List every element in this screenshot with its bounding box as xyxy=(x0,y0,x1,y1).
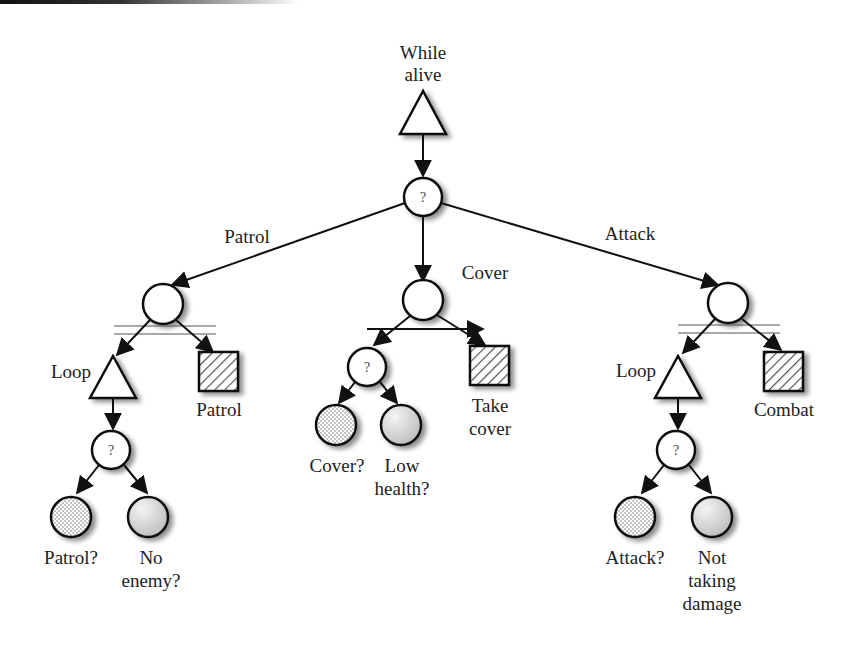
cover-action-label-line2: cover xyxy=(469,418,512,439)
attack-condition-2-label-line3: damage xyxy=(682,593,741,614)
behavior-tree-diagram: While alive ? Patrol Cover Attack Loop P… xyxy=(0,0,862,650)
attack-action-label: Combat xyxy=(754,399,815,420)
attack-condition-2-label-line1: Not xyxy=(698,547,727,568)
attack-action-node xyxy=(764,352,803,391)
patrol-loop-triangle-icon xyxy=(90,356,136,398)
root-label-line2: alive xyxy=(405,64,442,85)
cover-sequence-node xyxy=(403,280,443,320)
patrol-condition-no-enemy-node xyxy=(128,497,168,537)
patrol-condition-1-label: Patrol? xyxy=(44,547,98,568)
root-selector-symbol: ? xyxy=(420,190,426,205)
patrol-parallel-node xyxy=(143,284,183,324)
patrol-loop-label: Loop xyxy=(51,361,91,382)
attack-parallel-node xyxy=(708,283,748,323)
cover-condition-1-label: Cover? xyxy=(310,455,365,476)
attack-condition-1-label: Attack? xyxy=(605,547,664,568)
attack-loop-triangle-icon xyxy=(655,356,701,398)
cover-selector-symbol: ? xyxy=(364,360,370,375)
edge-patrol-to-action xyxy=(176,320,213,352)
cover-condition-2-label-line2: health? xyxy=(375,478,430,499)
while-alive-loop-triangle-icon xyxy=(400,91,446,134)
edge-to-patrol xyxy=(172,203,405,285)
edge-attack-sel-to-cond1 xyxy=(642,465,664,493)
patrol-condition-patrol-node xyxy=(51,497,91,537)
attack-condition-2-label-line2: taking xyxy=(688,570,736,591)
edge-patrol-sel-to-cond1 xyxy=(77,465,99,493)
edge-cover-sel-to-cond1 xyxy=(339,382,355,403)
patrol-selector-symbol: ? xyxy=(108,443,114,458)
attack-condition-not-taking-damage-node xyxy=(692,497,732,537)
patrol-condition-2-label-line2: enemy? xyxy=(121,570,180,591)
cover-condition-cover-node xyxy=(316,405,356,445)
cover-action-label-line1: Take xyxy=(472,395,509,416)
attack-condition-attack-node xyxy=(615,497,655,537)
edge-cover-sel-to-cond2 xyxy=(380,382,397,403)
patrol-action-label: Patrol xyxy=(196,399,241,420)
branch-label-patrol: Patrol xyxy=(224,226,269,247)
cover-condition-low-health-node xyxy=(381,405,421,445)
edge-cover-to-selector xyxy=(374,316,410,345)
edge-attack-to-loop xyxy=(683,319,715,353)
root-label-line1: While xyxy=(400,42,446,63)
patrol-condition-2-label-line1: No xyxy=(139,547,162,568)
edge-patrol-to-loop xyxy=(117,320,150,355)
branch-label-cover: Cover xyxy=(462,262,509,283)
edge-attack-to-action xyxy=(742,319,781,350)
attack-loop-label: Loop xyxy=(616,360,656,381)
edge-attack-sel-to-cond2 xyxy=(689,465,711,493)
edge-patrol-sel-to-cond2 xyxy=(124,465,147,493)
cover-condition-2-label-line1: Low xyxy=(385,455,420,476)
attack-selector-symbol: ? xyxy=(673,443,679,458)
branch-label-attack: Attack xyxy=(605,223,656,244)
patrol-action-node xyxy=(199,352,238,391)
cover-action-node xyxy=(470,346,509,385)
